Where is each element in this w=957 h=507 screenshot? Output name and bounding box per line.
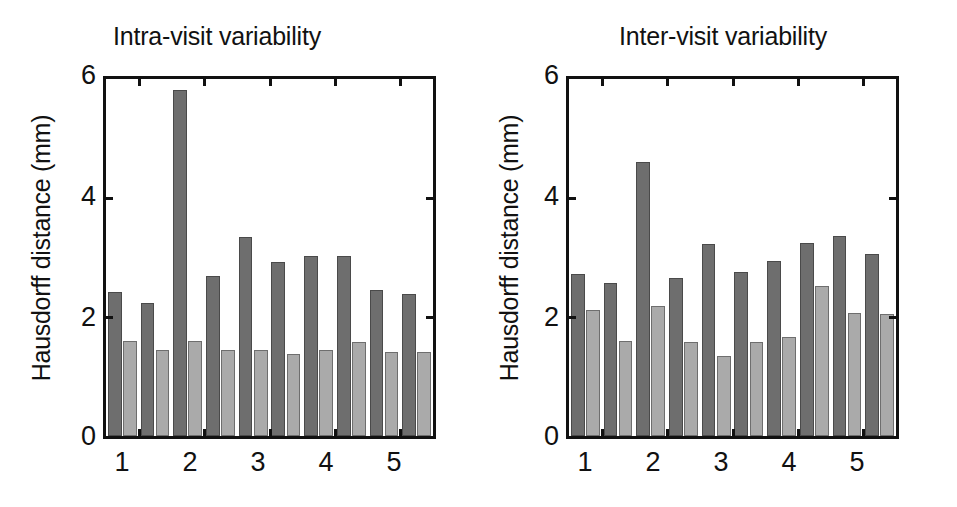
x-tick-label-5-left: 5	[377, 449, 411, 476]
x-tick-2	[203, 79, 206, 86]
x-tick-4	[334, 429, 337, 436]
x-tick-5	[399, 79, 402, 86]
x-tick-1	[138, 429, 141, 436]
x-tick-3	[732, 429, 735, 436]
bar-dark-5	[239, 237, 253, 436]
bar-dark-10	[865, 254, 879, 436]
bar-light-8	[352, 342, 366, 436]
x-tick-5	[399, 429, 402, 436]
bar-dark-7	[304, 256, 318, 436]
bar-dark-5	[702, 244, 716, 436]
x-tick-2	[203, 429, 206, 436]
y-axis-label-intra-visit: Hausdorff distance (mm)	[18, 58, 64, 438]
bar-dark-1	[571, 274, 585, 436]
x-tick-2	[666, 79, 669, 86]
y-tick-label-4-right: 4	[525, 183, 559, 210]
bar-light-6	[287, 354, 301, 436]
bar-dark-4	[669, 278, 683, 436]
bar-group-intra-visit	[106, 79, 433, 436]
bar-light-8	[815, 286, 829, 436]
x-tick-label-2-right: 2	[636, 449, 670, 476]
bar-light-5	[717, 356, 731, 436]
x-tick-label-4-left: 4	[309, 449, 343, 476]
bar-light-3	[651, 306, 665, 436]
bar-dark-3	[173, 90, 187, 436]
y-tick-label-0-right: 0	[525, 423, 559, 450]
y-tick-4	[426, 197, 433, 200]
y-tick-4	[106, 197, 113, 200]
bar-dark-4	[206, 276, 220, 436]
bar-light-4	[684, 342, 698, 436]
y-tick-4	[569, 197, 576, 200]
bar-light-10	[880, 314, 894, 436]
bar-dark-2	[604, 283, 618, 437]
bar-dark-6	[734, 272, 748, 436]
x-tick-label-3-left: 3	[241, 449, 275, 476]
bar-dark-1	[108, 292, 122, 436]
y-tick-label-2-left: 2	[62, 304, 96, 331]
x-tick-label-1-left: 1	[105, 449, 139, 476]
bar-light-1	[123, 341, 137, 436]
bar-group-inter-visit	[569, 79, 896, 436]
bar-light-5	[254, 350, 268, 436]
bar-dark-3	[636, 162, 650, 436]
plot-area-inter-visit	[566, 76, 899, 439]
panel-title-inter-visit: Inter-visit variability	[484, 22, 957, 51]
x-tick-3	[732, 79, 735, 86]
x-tick-3	[269, 429, 272, 436]
bar-light-6	[750, 342, 764, 436]
x-tick-1	[138, 79, 141, 86]
x-tick-5	[862, 429, 865, 436]
plot-area-intra-visit	[103, 76, 436, 439]
bar-light-9	[385, 352, 399, 436]
y-tick-label-6-left: 6	[62, 62, 96, 89]
y-tick-4	[889, 197, 896, 200]
bar-light-2	[619, 341, 633, 436]
x-tick-label-5-right: 5	[840, 449, 874, 476]
bar-dark-6	[271, 262, 285, 436]
x-tick-4	[797, 429, 800, 436]
y-tick-label-2-right: 2	[525, 304, 559, 331]
x-tick-label-2-left: 2	[173, 449, 207, 476]
bar-dark-7	[767, 261, 781, 436]
bar-light-1	[586, 310, 600, 436]
bar-light-7	[782, 337, 796, 436]
bar-light-4	[221, 350, 235, 436]
x-tick-2	[666, 429, 669, 436]
x-tick-3	[269, 79, 272, 86]
bar-light-9	[848, 313, 862, 436]
bar-light-3	[188, 341, 202, 436]
x-tick-5	[862, 79, 865, 86]
figure-root: Intra-visit variability Hausdorff distan…	[0, 0, 957, 507]
x-tick-1	[601, 79, 604, 86]
bar-dark-2	[141, 303, 155, 436]
x-tick-label-3-right: 3	[704, 449, 738, 476]
panel-intra-visit: Intra-visit variability Hausdorff distan…	[0, 0, 478, 507]
panel-title-intra-visit: Intra-visit variability	[0, 22, 456, 51]
y-tick-2	[426, 316, 433, 319]
y-tick-2	[889, 316, 896, 319]
bar-light-10	[417, 352, 431, 436]
bar-dark-9	[370, 290, 384, 436]
y-tick-label-4-left: 4	[62, 183, 96, 210]
bar-light-2	[156, 350, 170, 436]
y-tick-label-6-right: 6	[525, 62, 559, 89]
x-tick-4	[334, 79, 337, 86]
x-tick-label-4-right: 4	[772, 449, 806, 476]
y-tick-2	[569, 316, 576, 319]
panel-inter-visit: Inter-visit variability Hausdorff distan…	[478, 0, 956, 507]
y-tick-label-0-left: 0	[62, 423, 96, 450]
x-tick-label-1-right: 1	[568, 449, 602, 476]
bar-dark-9	[833, 236, 847, 436]
x-tick-4	[797, 79, 800, 86]
bar-light-7	[319, 350, 333, 436]
x-tick-1	[601, 429, 604, 436]
bar-dark-8	[337, 256, 351, 436]
bar-dark-8	[800, 243, 814, 436]
y-tick-2	[106, 316, 113, 319]
y-axis-label-inter-visit: Hausdorff distance (mm)	[486, 58, 532, 438]
bar-dark-10	[402, 294, 416, 436]
